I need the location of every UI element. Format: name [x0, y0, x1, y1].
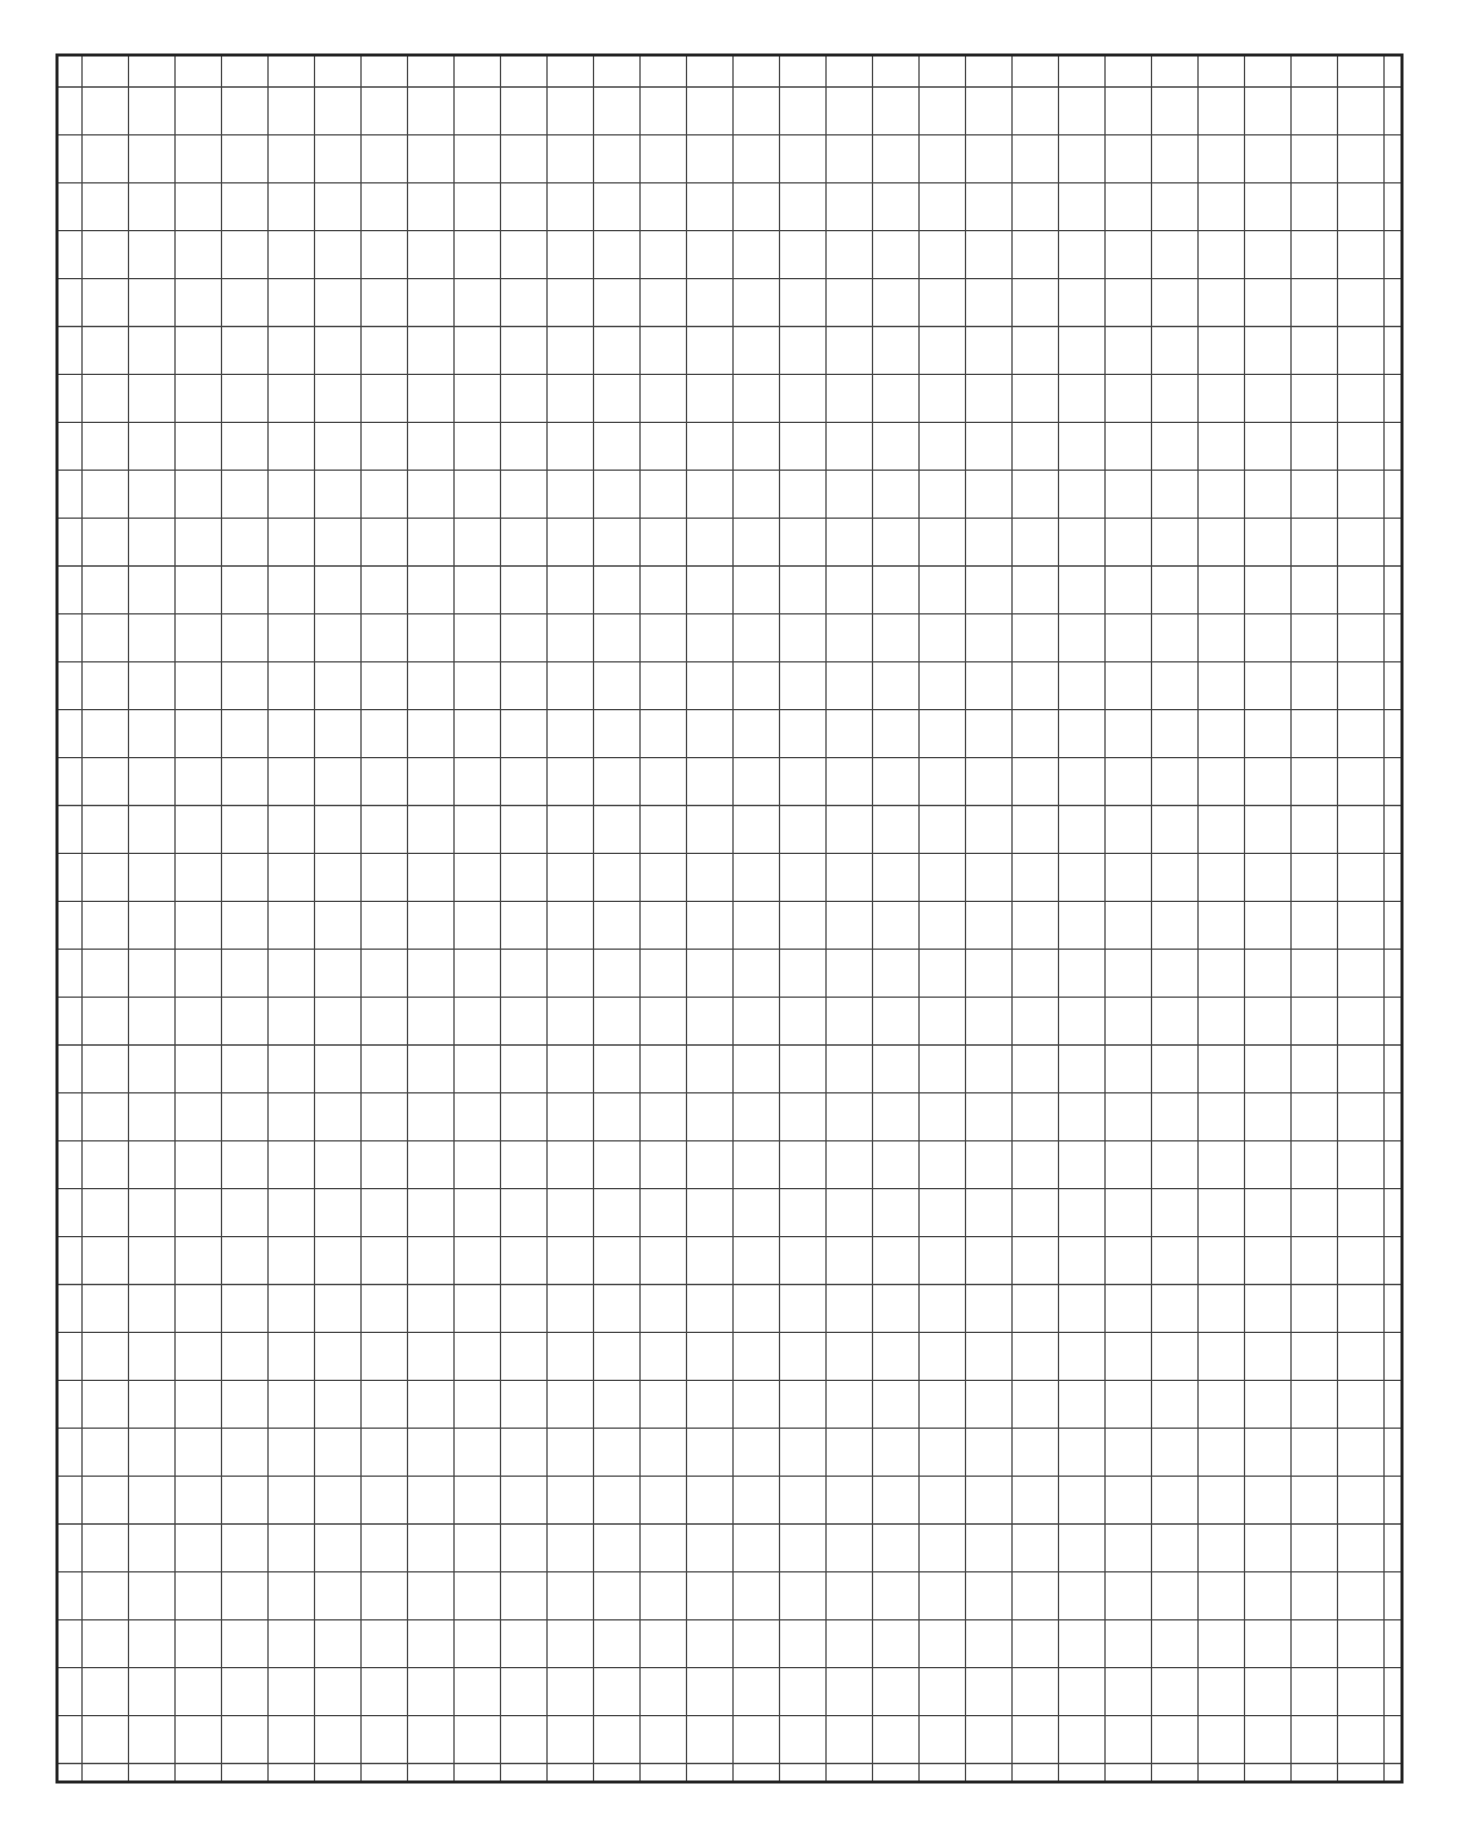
graph-paper-sheet: [0, 0, 1459, 1838]
grid-border: [57, 55, 1402, 1782]
grid-lines: [57, 55, 1402, 1782]
